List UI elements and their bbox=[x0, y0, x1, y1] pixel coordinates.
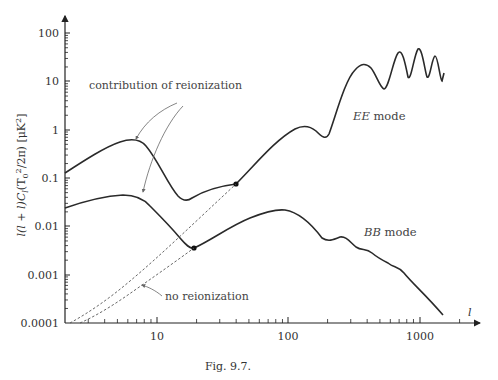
arrow-to-ee-icon bbox=[136, 103, 177, 139]
bb-mode-label: BB mode bbox=[363, 225, 417, 239]
y-tick-100: 100 bbox=[38, 27, 59, 40]
arrow-no-reionization-icon bbox=[142, 285, 162, 296]
ee-mode-label: EE mode bbox=[352, 109, 406, 123]
bb-no-reionization-curve bbox=[80, 248, 194, 323]
x-axis bbox=[65, 317, 480, 323]
y-tick-0.001: 0.001 bbox=[28, 269, 60, 282]
x-tick-1000: 1000 bbox=[406, 330, 434, 343]
bb-mode-curve bbox=[65, 195, 443, 315]
figure-caption: Fig. 9.7. bbox=[205, 360, 251, 373]
y-tick-1: 1 bbox=[52, 124, 59, 137]
y-tick-0.1: 0.1 bbox=[42, 172, 60, 185]
cmb-polarization-spectrum-chart: 100 10 1 0.1 0.01 0.001 0.0001 10 100 10… bbox=[0, 0, 498, 380]
x-axis-label: l bbox=[468, 306, 472, 319]
reionization-annotation: contribution of reionization bbox=[89, 79, 242, 92]
x-tick-labels: 10 100 1000 bbox=[150, 330, 434, 343]
y-axis-label: l(l + l)Cl(T02/2π) [μK2] bbox=[14, 114, 30, 237]
y-tick-0.0001: 0.0001 bbox=[21, 317, 60, 330]
no-reionization-annotation: no reionization bbox=[165, 290, 249, 303]
y-tick-10: 10 bbox=[45, 75, 59, 88]
x-tick-100: 100 bbox=[278, 330, 299, 343]
ee-mode-curve bbox=[65, 49, 444, 200]
x-tick-10: 10 bbox=[150, 330, 164, 343]
y-tick-0.01: 0.01 bbox=[35, 220, 60, 233]
